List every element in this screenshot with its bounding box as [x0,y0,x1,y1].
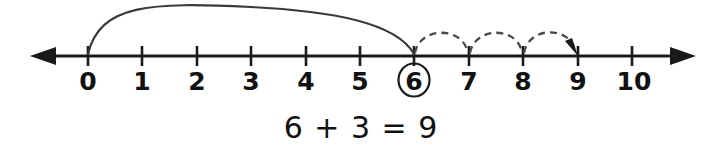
tick-label-7: 7 [460,67,477,96]
hop-arrowhead-icon [565,38,578,56]
hop-arc-6-to-7 [415,33,468,53]
tick-label-4: 4 [297,67,314,96]
tick-label-5: 5 [351,67,368,96]
left-arrowhead-icon [30,47,56,65]
tick-label-0: 0 [79,67,96,96]
tick-label-1: 1 [133,67,150,96]
right-arrowhead-icon [670,47,696,65]
tick-label-3: 3 [242,67,259,96]
tick-label-8: 8 [514,67,531,96]
tick-label-9: 9 [569,67,586,96]
hop-arc-7-to-8 [470,33,522,53]
number-line-figure: 0 1 2 3 4 5 6 7 8 9 10 6 + 3 = 9 [0,0,722,149]
tick-label-2: 2 [188,67,205,96]
equation-text: 6 + 3 = 9 [284,110,439,145]
tick-label-6: 6 [405,67,422,96]
number-line-diagram: 0 1 2 3 4 5 6 7 8 9 10 6 + 3 = 9 [0,0,722,149]
tick-label-10: 10 [617,67,652,96]
